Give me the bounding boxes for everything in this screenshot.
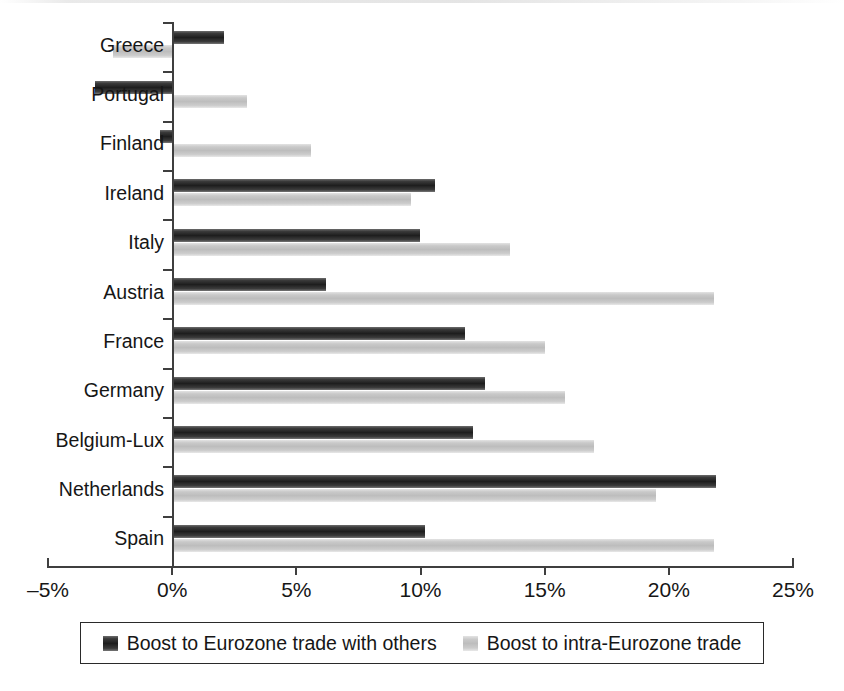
chart-legend: Boost to Eurozone trade with others Boos… xyxy=(80,622,764,664)
bar[interactable] xyxy=(172,144,311,157)
y-axis-tick xyxy=(163,170,173,172)
bar[interactable] xyxy=(172,327,465,340)
x-axis-tick xyxy=(792,558,794,568)
category-label: Austria xyxy=(103,282,164,302)
bar[interactable] xyxy=(172,391,564,404)
bar[interactable] xyxy=(172,179,435,192)
y-axis-tick xyxy=(163,269,173,271)
bar[interactable] xyxy=(172,31,224,44)
category-label: Greece xyxy=(100,35,164,55)
bar[interactable] xyxy=(172,292,713,305)
y-axis-tick xyxy=(163,22,173,24)
y-axis-tick xyxy=(163,71,173,73)
bar[interactable] xyxy=(172,377,485,390)
bar[interactable] xyxy=(172,243,510,256)
y-axis-tick xyxy=(163,417,173,419)
category-label: Netherlands xyxy=(59,479,164,499)
bar[interactable] xyxy=(172,440,594,453)
x-axis-tick-label: –5% xyxy=(27,578,69,602)
y-axis-tick xyxy=(163,219,173,221)
x-axis-tick-label: 10% xyxy=(399,578,441,602)
y-axis-line xyxy=(172,22,174,567)
x-axis-tick xyxy=(668,566,670,575)
bar[interactable] xyxy=(172,278,326,291)
category-label: Finland xyxy=(100,133,164,153)
y-axis-tick xyxy=(163,466,173,468)
bar[interactable] xyxy=(172,341,545,354)
category-label: Germany xyxy=(84,380,164,400)
x-axis-tick-label: 20% xyxy=(648,578,690,602)
y-axis-tick xyxy=(163,318,173,320)
legend-label-dark: Boost to Eurozone trade with others xyxy=(127,633,437,653)
page-edge-artifact xyxy=(0,0,844,3)
x-axis-tick xyxy=(171,566,173,575)
category-label: France xyxy=(103,331,164,351)
bar[interactable] xyxy=(172,193,410,206)
legend-entry-light[interactable]: Boost to intra-Eurozone trade xyxy=(463,633,742,653)
bar[interactable] xyxy=(172,525,425,538)
x-axis-tick xyxy=(295,566,297,575)
category-label: Italy xyxy=(128,232,164,252)
bar[interactable] xyxy=(172,426,472,439)
bar[interactable] xyxy=(172,229,420,242)
x-axis-tick xyxy=(544,566,546,575)
dark-swatch-icon xyxy=(103,636,118,651)
category-label: Spain xyxy=(114,528,164,548)
category-label: Belgium-Lux xyxy=(56,430,164,450)
x-axis-tick-label: 15% xyxy=(524,578,566,602)
bar[interactable] xyxy=(172,475,716,488)
x-axis-tick xyxy=(420,566,422,575)
bar[interactable] xyxy=(172,489,656,502)
bar-chart: –5%0%5%10%15%20%25% GreecePortugalFinlan… xyxy=(0,0,844,691)
category-label: Portugal xyxy=(91,84,164,104)
legend-entry-dark[interactable]: Boost to Eurozone trade with others xyxy=(103,633,437,653)
light-swatch-icon xyxy=(463,636,478,651)
bar[interactable] xyxy=(172,539,713,552)
y-axis-tick xyxy=(163,368,173,370)
y-axis-tick xyxy=(163,121,173,123)
x-axis-tick-label: 0% xyxy=(157,578,187,602)
y-axis-tick xyxy=(163,516,173,518)
legend-label-light: Boost to intra-Eurozone trade xyxy=(487,633,742,653)
bar[interactable] xyxy=(172,95,247,108)
x-axis-tick xyxy=(47,558,49,568)
x-axis-tick-label: 5% xyxy=(281,578,311,602)
x-axis-tick-label: 25% xyxy=(772,578,814,602)
category-label: Ireland xyxy=(104,183,164,203)
